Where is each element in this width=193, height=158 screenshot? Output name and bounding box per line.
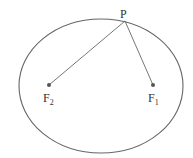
focus-1-label: F1 (148, 91, 159, 107)
segment-p-f1 (125, 21, 153, 85)
ellipse (19, 19, 183, 153)
ellipse-diagram: P F2 F1 (0, 0, 193, 158)
segment-p-f2 (49, 21, 125, 85)
point-p-label: P (120, 7, 127, 21)
focus-1-dot (151, 83, 155, 87)
focus-2-label: F2 (43, 91, 54, 107)
focus-2-dot (47, 83, 51, 87)
